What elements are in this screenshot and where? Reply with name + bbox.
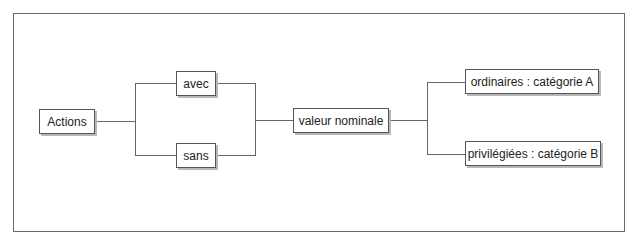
connector — [427, 154, 465, 155]
node-label: valeur nominale — [299, 114, 384, 128]
connector — [94, 121, 135, 122]
connector — [389, 120, 427, 121]
node-valeur-nominale: valeur nominale — [293, 108, 389, 133]
connector — [427, 82, 428, 155]
connector — [427, 82, 465, 83]
connector — [135, 83, 176, 84]
node-label: Actions — [47, 115, 86, 129]
connector — [135, 155, 176, 156]
connector — [135, 83, 136, 156]
connector — [216, 155, 255, 156]
node-privilegiees: privilégiées : catégorie B — [465, 141, 601, 166]
connector — [216, 83, 255, 84]
node-label: ordinaires : catégorie A — [471, 75, 594, 89]
node-label: privilégiées : catégorie B — [468, 147, 599, 161]
node-label: avec — [183, 77, 208, 91]
node-actions: Actions — [39, 109, 95, 134]
node-label: sans — [183, 149, 208, 163]
connector — [255, 120, 293, 121]
node-sans: sans — [176, 143, 216, 168]
node-ordinaires: ordinaires : catégorie A — [465, 69, 599, 94]
node-avec: avec — [176, 71, 216, 96]
